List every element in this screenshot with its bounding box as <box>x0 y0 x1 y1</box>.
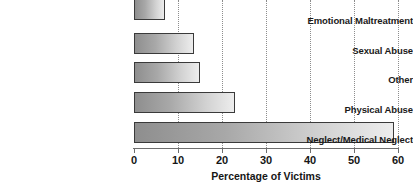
bar-physical-abuse <box>134 92 235 113</box>
bar-other <box>134 62 200 83</box>
x-tick-label-30: 30 <box>251 154 281 166</box>
category-label-sexual-abuse: Sexual Abuse <box>283 45 413 56</box>
category-label-neglect-medical-neglect: Neglect/Medical Neglect <box>283 134 413 145</box>
x-tick-60 <box>398 149 399 153</box>
x-tick-label-20: 20 <box>207 154 237 166</box>
x-tick-10 <box>178 149 179 153</box>
bar-chart: Emotional Maltreatment Sexual Abuse Othe… <box>0 0 413 189</box>
x-axis-title: Percentage of Victims <box>134 170 398 182</box>
x-tick-50 <box>354 149 355 153</box>
x-tick-0 <box>134 149 135 153</box>
bar-emotional-maltreatment <box>134 0 165 20</box>
x-tick-40 <box>310 149 311 153</box>
category-label-other: Other <box>283 74 413 85</box>
x-tick-label-50: 50 <box>339 154 369 166</box>
x-tick-label-60: 60 <box>383 154 413 166</box>
x-tick-label-10: 10 <box>163 154 193 166</box>
x-tick-30 <box>266 149 267 153</box>
category-label-emotional-maltreatment: Emotional Maltreatment <box>283 15 413 26</box>
x-tick-label-40: 40 <box>295 154 325 166</box>
x-tick-label-0: 0 <box>119 154 149 166</box>
category-label-physical-abuse: Physical Abuse <box>283 104 413 115</box>
x-tick-20 <box>222 149 223 153</box>
bar-sexual-abuse <box>134 33 194 54</box>
